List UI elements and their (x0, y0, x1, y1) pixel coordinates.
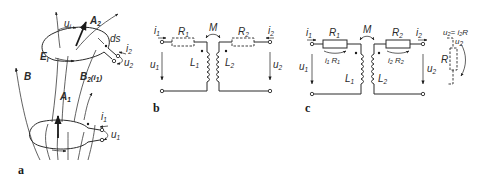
ds-tick (98, 38, 104, 44)
resistor-r2 (232, 38, 254, 46)
label-ds: ds (110, 33, 121, 44)
resistor-r1-c (323, 40, 347, 48)
label-r2-c: R2 (392, 27, 403, 39)
figure-canvas: ui A2 ds i2 u2 Ei B B2(i1) A1 i1 u1 a (0, 0, 480, 183)
i1-arrow (100, 126, 108, 127)
label-i2r2: i₂ R₂ (388, 56, 404, 65)
coil-l1-c (361, 44, 364, 94)
label-i1: i1 (101, 111, 107, 123)
panel-c: i1 R1 M R2 i2 u₂= i₂R u1 i₁ R₁ i₂ R₂ L1 … (299, 24, 468, 115)
label-i2-b: i2 (268, 25, 274, 37)
figure-svg: ui A2 ds i2 u2 Ei B B2(i1) A1 i1 u1 a (0, 0, 480, 183)
i2-arrow (119, 52, 126, 54)
label-m-b: M (209, 22, 218, 33)
label-l1-b: L1 (190, 57, 200, 69)
label-a1: A1 (59, 91, 71, 103)
label-b: B (24, 71, 31, 82)
label-u2-b: u2 (273, 59, 283, 71)
label-i1r1: i₁ R₁ (325, 56, 340, 65)
label-u2-load: u2 (455, 37, 463, 47)
mutual-coupling-arrow (206, 34, 220, 38)
label-u1-c: u1 (299, 61, 309, 73)
panel-a: ui A2 ds i2 u2 Ei B B2(i1) A1 i1 u1 a (16, 12, 134, 177)
label-u2: u2 (124, 57, 134, 69)
label-ui: ui (64, 18, 72, 30)
label-ei: Ei (40, 51, 49, 63)
label-r1-c: R1 (329, 27, 340, 39)
i1r1-arrow (324, 51, 346, 53)
flux-lines (16, 12, 118, 160)
label-r1-b: R1 (178, 26, 189, 38)
panel-label-a: a (18, 163, 24, 177)
loop-1 (30, 120, 104, 151)
label-r-load: R (441, 54, 448, 65)
label-r2-b: R2 (238, 26, 249, 38)
resistor-r2-c (386, 40, 410, 48)
mutual-coupling-arrow-c (360, 36, 374, 40)
label-a2: A2 (89, 15, 101, 27)
label-i2-c: i2 (416, 27, 422, 39)
label-l2-b: L2 (225, 57, 235, 69)
label-u2-equation: u₂= i₂R (443, 28, 468, 37)
resistor-r1 (172, 38, 194, 46)
panel-b: i1 R1 M R2 i2 u1 L1 L2 u2 b (150, 22, 283, 115)
label-i1-b: i1 (154, 25, 160, 37)
label-i1-c: i1 (306, 27, 312, 39)
area-vector-a2-arrow (76, 22, 86, 46)
label-u1-b: u1 (150, 59, 160, 71)
i2r2-arrow (387, 51, 409, 53)
label-b2: B2(i1) (80, 71, 102, 83)
u1-arrow (104, 131, 108, 140)
coil-l1 (207, 42, 210, 91)
panel-label-c: c (305, 101, 311, 115)
label-u1: u1 (111, 129, 121, 141)
coil-l2 (217, 42, 220, 91)
label-l1-c: L1 (345, 73, 355, 85)
label-i2: i2 (126, 43, 132, 55)
coil-l2-c (372, 44, 375, 94)
label-m-c: M (363, 24, 372, 35)
label-u2-c: u2 (427, 63, 437, 75)
label-l2-c: L2 (378, 73, 388, 85)
panel-label-b: b (153, 101, 160, 115)
